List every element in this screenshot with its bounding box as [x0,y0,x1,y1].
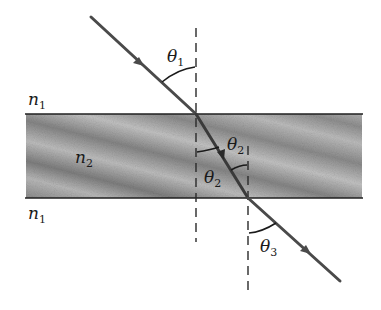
label-n1-top: n1 [28,89,46,112]
theta3-arc [249,223,276,233]
refraction-diagram: n1 n2 n1 θ1 θ2 θ2 θ3 [0,0,381,310]
theta1-arc [162,67,195,82]
label-theta3: θ3 [260,236,277,259]
label-theta1: θ1 [167,46,184,69]
label-n1-bottom: n1 [28,203,46,226]
